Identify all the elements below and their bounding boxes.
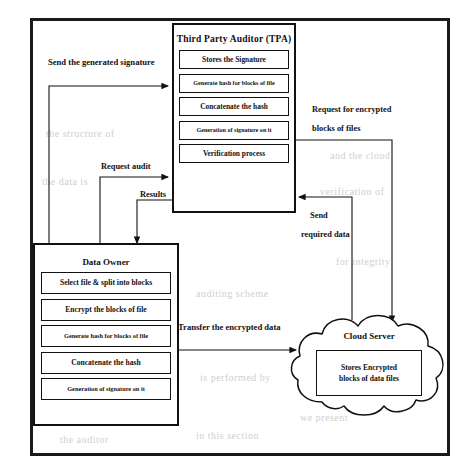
- edge-label-blocks-of-files: blocks of files: [312, 124, 360, 133]
- data-owner-step-list: Select file & split into blocks Encrypt …: [35, 268, 177, 409]
- edge-label-transfer-data: Transfer the encrypted data: [178, 322, 281, 332]
- cloud-storage-line1: Stores Encrypted: [341, 362, 397, 373]
- edge-label-send-signature: Send the generated signature: [48, 57, 155, 67]
- tpa-step-list: Stores the Signature Generate hash for b…: [174, 44, 294, 168]
- edge-label-required-data: required data: [301, 230, 350, 239]
- cloud-storage-line2: blocks of data files: [339, 373, 399, 384]
- edge-label-send: Send: [310, 211, 328, 220]
- tpa-step-stores-signature[interactable]: Stores the Signature: [179, 50, 289, 69]
- cloud-storage-box[interactable]: Stores Encrypted blocks of data files: [316, 350, 422, 396]
- owner-step-select-split[interactable]: Select file & split into blocks: [41, 272, 171, 294]
- data-owner-node: Data Owner Select file & split into bloc…: [33, 243, 179, 426]
- cloud-server-node: Cloud Server Stores Encrypted blocks of …: [286, 306, 452, 426]
- owner-step-generate-hash[interactable]: Generate hash for blocks of file: [41, 325, 171, 347]
- edge-label-request-encrypted: Request for encrypted: [312, 105, 391, 114]
- edge-label-request-audit: Request audit: [101, 162, 151, 171]
- tpa-step-concatenate-hash[interactable]: Concatenate the hash: [179, 97, 289, 116]
- tpa-step-generate-signature[interactable]: Generation of signature on it: [179, 121, 289, 140]
- tpa-title: Third Party Auditor (TPA): [174, 25, 294, 44]
- owner-step-generate-signature[interactable]: Generation of signature on it: [41, 378, 171, 400]
- edge-label-results: Results: [140, 190, 166, 199]
- data-owner-title: Data Owner: [35, 245, 177, 268]
- diagram-canvas: the structure of sequential order and th…: [0, 0, 458, 472]
- tpa-step-verification[interactable]: Verification process: [179, 144, 289, 163]
- third-party-auditor-node: Third Party Auditor (TPA) Stores the Sig…: [172, 23, 296, 213]
- cloud-server-title: Cloud Server: [286, 331, 452, 341]
- owner-step-encrypt-blocks[interactable]: Encrypt the blocks of file: [41, 299, 171, 321]
- owner-step-concatenate-hash[interactable]: Concatenate the hash: [41, 352, 171, 374]
- tpa-step-generate-hash[interactable]: Generate hash for blocks of file: [179, 74, 289, 93]
